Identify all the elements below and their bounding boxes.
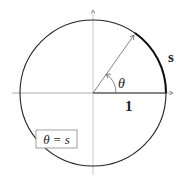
equation-label: θ = s — [43, 132, 70, 147]
angle-arc — [106, 74, 116, 93]
radius-line — [93, 35, 134, 93]
arc-label: s — [168, 49, 174, 65]
radius-label: 1 — [125, 98, 133, 114]
unit-circle-diagram: θ s 1 θ = s — [0, 0, 183, 182]
angle-label: θ — [118, 76, 125, 91]
arc-s — [135, 33, 166, 93]
